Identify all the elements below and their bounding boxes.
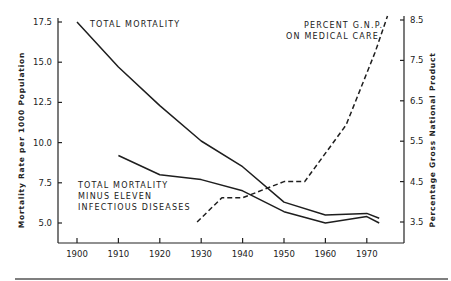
y-tick-label: 17.5 bbox=[33, 17, 52, 27]
labels-layer: TOTAL MORTALITY TOTAL MORTALITY MINUS EL… bbox=[17, 20, 437, 228]
y-tick-label: 10.0 bbox=[33, 138, 52, 148]
y2-tick-label: 7.5 bbox=[410, 55, 424, 65]
chart-canvas: 17.515.012.510.07.55.08.57.56.55.54.53.5… bbox=[0, 0, 451, 281]
x-tick-label: 1900 bbox=[66, 249, 88, 259]
right-axis-title: Percentage Gross National Product bbox=[428, 52, 437, 227]
y-tick-label: 12.5 bbox=[33, 97, 52, 107]
y-tick-label: 7.5 bbox=[38, 178, 52, 188]
y2-tick-label: 8.5 bbox=[410, 15, 424, 25]
axes: 17.515.012.510.07.55.08.57.56.55.54.53.5… bbox=[33, 15, 423, 259]
label-minus-line1: TOTAL MORTALITY bbox=[77, 181, 168, 190]
label-total-mortality: TOTAL MORTALITY bbox=[89, 20, 180, 29]
x-tick-label: 1930 bbox=[190, 249, 212, 259]
x-tick-label: 1940 bbox=[232, 249, 254, 259]
x-tick-label: 1920 bbox=[149, 249, 171, 259]
label-minus-line2: MINUS ELEVEN bbox=[78, 192, 152, 201]
x-tick-label: 1950 bbox=[273, 249, 295, 259]
label-gnp-line1: PERCENT G.N.P. bbox=[304, 21, 383, 30]
y2-tick-label: 5.5 bbox=[410, 136, 424, 146]
y-tick-label: 15.0 bbox=[33, 57, 52, 67]
y2-tick-label: 6.5 bbox=[410, 96, 424, 106]
y2-tick-label: 3.5 bbox=[410, 217, 424, 227]
x-tick-label: 1960 bbox=[315, 249, 337, 259]
left-axis-title: Mortality Rate per 1000 Population bbox=[17, 52, 26, 228]
x-tick-label: 1970 bbox=[356, 249, 378, 259]
y2-tick-label: 4.5 bbox=[410, 177, 424, 187]
x-tick-label: 1910 bbox=[108, 249, 130, 259]
y-tick-label: 5.0 bbox=[38, 218, 52, 228]
series-line-2 bbox=[197, 16, 387, 222]
label-minus-line3: INFECTIOUS DISEASES bbox=[78, 203, 191, 212]
label-gnp-line2: ON MEDICAL CARE bbox=[286, 32, 379, 41]
